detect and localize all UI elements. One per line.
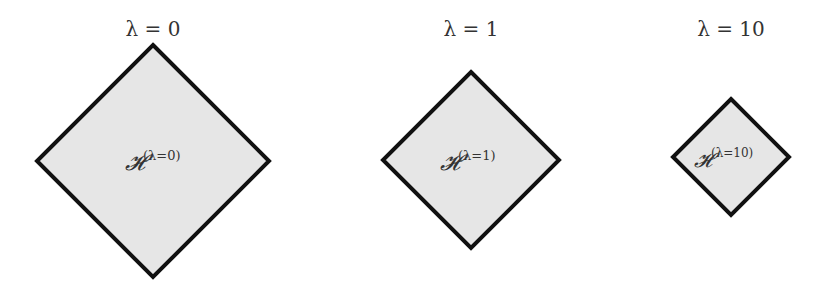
panel-title: λ = 10 <box>697 17 765 41</box>
region-superscript: (λ=10) <box>711 146 753 160</box>
panel-title: λ = 1 <box>444 17 499 41</box>
panel-lambda-10: λ = 10 𝓗 (λ=10) <box>673 17 789 215</box>
panel-lambda-0: λ = 0 𝓗 (λ=0) <box>37 17 269 277</box>
panel-title: λ = 0 <box>126 17 181 41</box>
region-superscript: (λ=0) <box>143 148 181 163</box>
region-superscript: (λ=1) <box>458 148 496 163</box>
diagram-canvas: λ = 0 𝓗 (λ=0) λ = 1 𝓗 (λ=1) λ = 10 𝓗 (λ=… <box>0 0 820 286</box>
panel-lambda-1: λ = 1 𝓗 (λ=1) <box>383 17 559 248</box>
